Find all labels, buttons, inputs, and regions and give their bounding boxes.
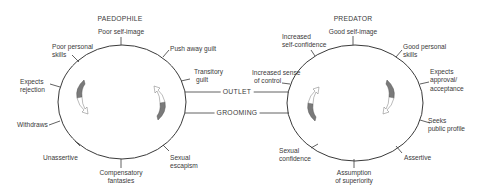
label-expects-approval-acceptance: Expects approval/ acceptance — [430, 68, 464, 93]
label-good-personal-skills: Good personal skills — [403, 43, 446, 60]
label-assertive: Assertive — [404, 154, 431, 162]
paedophile-right-cycle-arrow — [154, 86, 165, 120]
label-sexual-confidence: Sexual confidence — [279, 147, 311, 164]
paedophile-cycle-ellipse — [58, 45, 186, 159]
label-seeks-public-profile: Seeks public profile — [428, 117, 465, 134]
label-assumption-of-superiority: Assumption of superiority — [335, 169, 373, 186]
diagram-canvas: PAEDOPHILE Poor self-image Poor personal… — [0, 0, 482, 193]
paedophile-title: PAEDOPHILE — [98, 15, 143, 23]
label-poor-personal-skills: Poor personal skills — [52, 43, 93, 60]
label-increased-self-confidence: Increased self-confidence — [282, 33, 326, 50]
outlet-label: OUTLET — [221, 88, 254, 96]
label-transitory-guilt: Transitory guilt — [194, 68, 223, 85]
predator-left-cycle-arrow — [308, 87, 319, 121]
label-good-self-image: Good self-image — [329, 28, 377, 36]
label-poor-self-image: Poor self-image — [98, 28, 144, 36]
label-unassertive: Unassertive — [43, 154, 78, 162]
predator-cycle-ellipse — [287, 45, 423, 161]
grooming-label: GROOMING — [215, 109, 260, 117]
paedophile-left-cycle-arrow — [77, 80, 88, 114]
predator-right-cycle-arrow — [383, 80, 394, 114]
predator-title: PREDATOR — [334, 15, 373, 23]
label-increased-sense-of-control: Increased sense of control — [252, 69, 300, 86]
diagram-graphics — [0, 0, 482, 193]
label-expects-rejection: Expects rejection — [20, 78, 45, 95]
label-compensatory-fantasies: Compensatory fantasies — [100, 169, 143, 186]
label-sexual-escapism: Sexual escapism — [170, 154, 198, 171]
label-push-away-guilt: Push away guilt — [170, 45, 216, 53]
label-withdraws: Withdraws — [17, 121, 48, 129]
